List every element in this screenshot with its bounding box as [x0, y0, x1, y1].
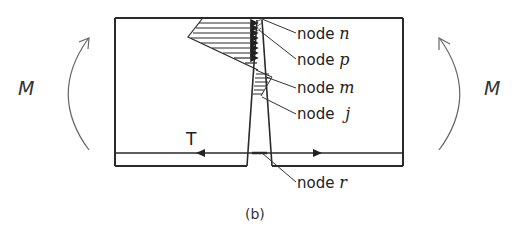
- node-symbol: j: [345, 104, 350, 123]
- node-label-j: node j: [297, 106, 350, 122]
- tension-label: T: [186, 131, 196, 148]
- node-symbol: p: [339, 50, 349, 69]
- node-label-p: node p: [297, 52, 349, 68]
- node-symbol: r: [339, 173, 347, 192]
- node-label-r: node r: [297, 175, 347, 191]
- node-symbol: n: [339, 24, 349, 43]
- crack: [247, 20, 272, 166]
- compression-stress-block: [188, 19, 258, 70]
- tension-arrow-right-icon: [313, 149, 322, 157]
- secondary-stress-block: [253, 70, 272, 96]
- node-symbol: m: [339, 78, 354, 97]
- figure-caption: (b): [245, 207, 265, 221]
- moment-label-right: M: [484, 79, 500, 98]
- tension-arrow-left-icon: [196, 149, 205, 157]
- node-label-n: node n: [297, 26, 350, 42]
- moment-arrow-left-icon: [68, 38, 89, 150]
- node-word: node: [297, 105, 334, 123]
- moment-label-left: M: [18, 79, 34, 98]
- leader-lines: [259, 19, 296, 182]
- node-word: node: [297, 25, 334, 43]
- node-label-m: node m: [297, 80, 354, 96]
- node-word: node: [297, 174, 334, 192]
- node-word: node: [297, 51, 334, 69]
- beam-outline: [115, 18, 403, 166]
- node-word: node: [297, 79, 334, 97]
- moment-arrow-right-icon: [439, 38, 460, 150]
